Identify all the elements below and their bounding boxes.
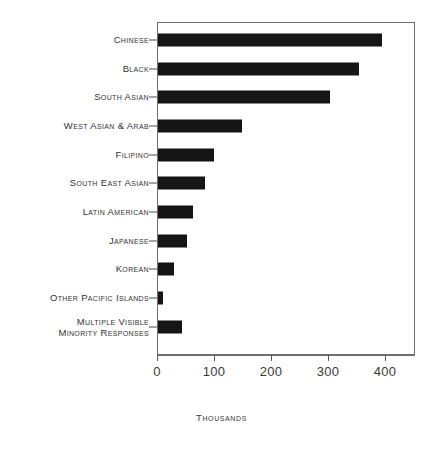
x-axis-tick <box>328 355 329 361</box>
x-axis-caption: Thousands <box>0 412 443 423</box>
bar <box>158 177 205 190</box>
category-label: Japanese <box>0 235 149 247</box>
bar <box>158 62 359 75</box>
bar <box>158 119 242 132</box>
bar <box>158 91 330 104</box>
category-label: Latin American <box>0 206 149 218</box>
x-axis-tick-label: 0 <box>127 364 187 379</box>
category-tick-mark <box>149 269 157 270</box>
category-label: Black <box>0 63 149 75</box>
category-tick-mark <box>149 39 157 40</box>
bar <box>158 148 214 161</box>
x-axis-tick-label: 400 <box>355 364 415 379</box>
category-tick-mark <box>149 183 157 184</box>
visible-minority-population-bar-chart: ChineseBlackSouth AsianWest Asian & Arab… <box>0 0 443 451</box>
category-tick-mark <box>149 68 157 69</box>
category-tick-mark <box>149 298 157 299</box>
x-axis-tick <box>385 355 386 361</box>
category-tick-mark <box>149 212 157 213</box>
x-axis-tick <box>214 355 215 361</box>
category-label: West Asian & Arab <box>0 120 149 132</box>
bar <box>158 234 187 247</box>
bar <box>158 33 382 46</box>
x-axis-tick <box>157 355 158 361</box>
bar <box>158 320 182 333</box>
x-axis-tick <box>271 355 272 361</box>
category-label: Korean <box>0 264 149 276</box>
bar <box>158 292 163 305</box>
category-label: South East Asian <box>0 178 149 190</box>
category-label: Chinese <box>0 34 149 46</box>
x-axis-tick-label: 300 <box>298 364 358 379</box>
x-axis-tick-label: 200 <box>241 364 301 379</box>
category-label: South Asian <box>0 91 149 103</box>
bar-rows-container: ChineseBlackSouth AsianWest Asian & Arab… <box>0 22 443 355</box>
category-tick-mark <box>149 97 157 98</box>
category-tick-mark <box>149 240 157 241</box>
category-tick-mark <box>149 326 157 327</box>
category-label: Filipino <box>0 149 149 161</box>
bar <box>158 206 193 219</box>
x-axis-tick-label: 100 <box>184 364 244 379</box>
x-axis-line <box>157 355 415 356</box>
category-tick-mark <box>149 154 157 155</box>
category-label: Multiple Visible Minority Responses <box>0 315 149 338</box>
category-label: Other Pacific Islands <box>0 292 149 304</box>
category-tick-mark <box>149 125 157 126</box>
bar <box>158 263 174 276</box>
